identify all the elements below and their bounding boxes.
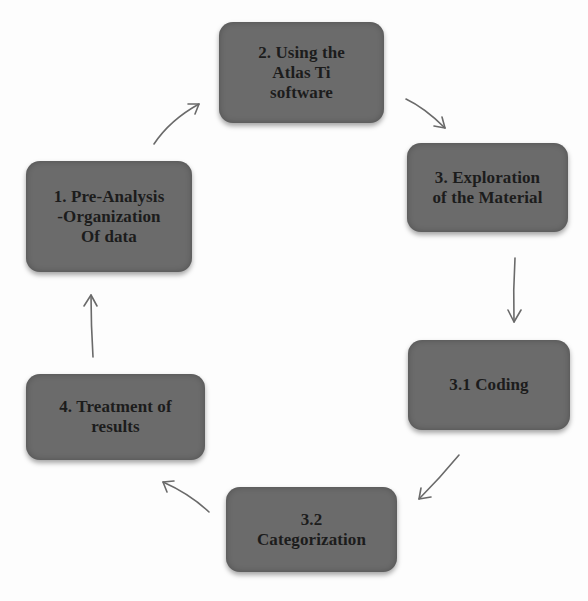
arrow-icon bbox=[406, 99, 445, 128]
arrow-icon bbox=[419, 455, 459, 499]
node-categorization: 3.2 Categorization bbox=[226, 487, 397, 572]
arrow-icon bbox=[84, 295, 97, 357]
node-label: 3.2 Categorization bbox=[257, 510, 366, 550]
node-pre-analysis: 1. Pre-Analysis -Organization Of data bbox=[26, 161, 192, 272]
node-coding: 3.1 Coding bbox=[408, 340, 570, 430]
node-atlas-ti: 2. Using the Atlas Ti software bbox=[219, 22, 384, 123]
arrow-icon bbox=[154, 104, 199, 144]
node-label: 3.1 Coding bbox=[449, 375, 528, 395]
node-label: 2. Using the Atlas Ti software bbox=[258, 43, 345, 103]
arrow-icon bbox=[508, 258, 521, 322]
node-label: 3. Exploration of the Material bbox=[432, 168, 542, 208]
node-exploration: 3. Exploration of the Material bbox=[407, 143, 568, 232]
node-label: 1. Pre-Analysis -Organization Of data bbox=[54, 187, 165, 247]
cycle-diagram: 1. Pre-Analysis -Organization Of data 2.… bbox=[0, 0, 588, 601]
arrow-icon bbox=[163, 481, 209, 512]
node-label: 4. Treatment of results bbox=[59, 397, 171, 437]
node-treatment: 4. Treatment of results bbox=[26, 374, 205, 460]
